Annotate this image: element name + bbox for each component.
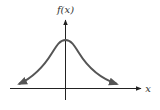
y-axis-label: f(x) <box>56 4 74 15</box>
bell-curve-diagram: f(x) x <box>0 0 160 110</box>
x-axis-label: x <box>145 83 151 94</box>
bell-curve <box>19 40 117 84</box>
